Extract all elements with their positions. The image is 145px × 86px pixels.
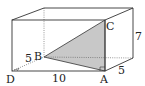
- label-d: D: [6, 73, 15, 86]
- prism-diagram: B C D A 10 7 5 5: [0, 0, 145, 86]
- label-width-right-5: 5: [118, 64, 125, 77]
- label-height-7: 7: [135, 30, 142, 43]
- label-b: B: [34, 50, 42, 63]
- label-length-10: 10: [52, 72, 66, 85]
- label-a: A: [99, 73, 109, 86]
- right-face-edges: [105, 8, 133, 71]
- label-c: C: [106, 20, 114, 33]
- label-width-left-5: 5: [25, 52, 32, 65]
- shaded-triangle-abc: [44, 20, 105, 71]
- top-face-edges: [12, 8, 133, 20]
